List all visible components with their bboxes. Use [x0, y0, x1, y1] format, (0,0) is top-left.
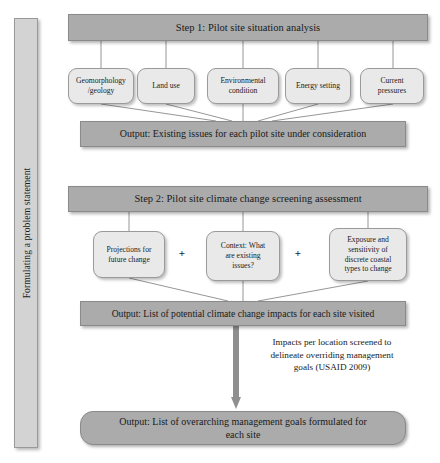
factor-line: types to change [344, 264, 391, 274]
factor-line: are existing [221, 251, 265, 261]
operator-plus-1: + [176, 247, 188, 259]
phase-spine: Formulating a problem statement [14, 18, 38, 448]
factor-line: Exposure and [344, 235, 391, 245]
operator-plus-2: + [292, 247, 304, 259]
factor-geomorphology-geology: Geomorphology /geology [68, 68, 134, 104]
factor-current-pressures: Current pressures [360, 68, 424, 104]
arrow-annotation-line: delineate overriding management [244, 349, 420, 362]
factor-line: sensitivity of [344, 245, 391, 255]
factor-line: Current [378, 76, 406, 86]
arrow-annotation-line: goals (USAID 2009) [244, 361, 420, 374]
factor-environmental-condition: Environmental condition [207, 68, 279, 104]
factor-line: Geomorphology [76, 76, 126, 86]
factor-exposure-sensitivity: Exposure and sensitivity of discrete coa… [329, 228, 407, 281]
step1-banner: Step 1: Pilot site situation analysis [68, 14, 428, 41]
factor-line: Context: What [221, 241, 265, 251]
factor-line: /geology [76, 86, 126, 96]
factor-context-existing-issues: Context: What are existing issues? [206, 231, 280, 281]
factor-land-use: Land use [137, 68, 195, 104]
factor-line: Environmental [220, 76, 265, 86]
factor-line: discrete coastal [344, 255, 391, 265]
factor-energy-setting: Energy setting [285, 68, 351, 104]
final-output-line: Output: List of overarching management g… [119, 415, 366, 428]
step2-output-banner: Output: List of potential climate change… [80, 301, 406, 326]
factor-line: pressures [378, 86, 406, 96]
final-output-line: each site [119, 428, 366, 441]
arrow-annotation: Impacts per location screened to delinea… [244, 336, 420, 374]
factor-projections-future-change: Projections for future change [93, 231, 165, 278]
final-output-banner: Output: List of overarching management g… [80, 411, 406, 445]
factor-line: Energy setting [296, 81, 340, 91]
step1-output-banner: Output: Existing issues for each pilot s… [80, 121, 406, 147]
arrow-annotation-line: Impacts per location screened to [244, 336, 420, 349]
factor-line: issues? [221, 261, 265, 271]
flowchart-canvas: Formulating a problem statement Step 1: … [0, 0, 440, 463]
phase-spine-label: Formulating a problem statement [21, 168, 32, 299]
factor-line: condition [220, 86, 265, 96]
factor-line: Land use [152, 81, 180, 91]
step2-banner: Step 2: Pilot site climate change screen… [68, 186, 428, 212]
factor-line: future change [107, 255, 152, 265]
factor-line: Projections for [107, 245, 152, 255]
